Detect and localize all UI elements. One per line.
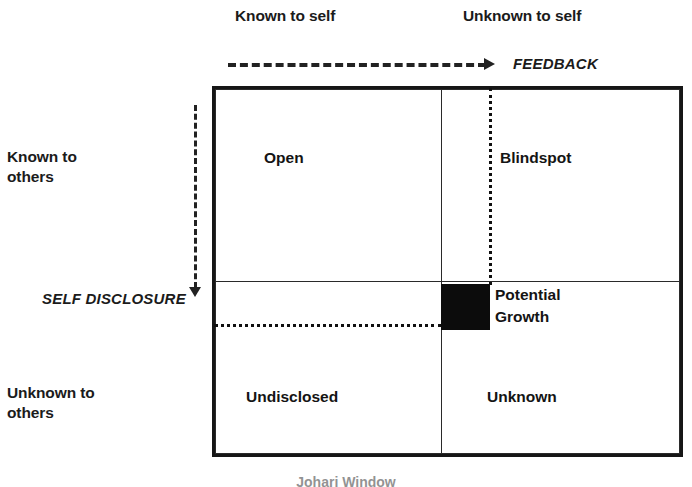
column-header-unknown-to-self: Unknown to self [463,6,581,26]
column-header-known-to-self: Known to self [235,6,335,26]
potential-growth-block [441,284,490,330]
potential-growth-label-line2: Growth [495,307,549,327]
undisclosed-dotted-guide [214,324,442,327]
feedback-arrowhead-icon [484,58,495,70]
vertical-divider [441,89,442,454]
blindspot-dotted-guide [489,88,492,285]
diagram-caption: Johari Window [0,474,692,487]
row-header-unknown-to-others-line2: others [7,403,54,423]
quadrant-label-open: Open [264,148,304,168]
potential-growth-label-line1: Potential [495,285,560,305]
row-header-known-to-others-line1: Known to [7,147,77,167]
row-header-known-to-others-line2: others [7,167,54,187]
self-disclosure-arrow-line [194,105,197,288]
quadrant-label-blindspot: Blindspot [500,148,571,168]
feedback-axis-label: FEEDBACK [513,55,598,72]
horizontal-divider [215,281,680,282]
self-disclosure-arrowhead-icon [189,287,201,297]
feedback-arrow-line [228,63,486,67]
row-header-unknown-to-others-line1: Unknown to [7,383,95,403]
quadrant-label-unknown: Unknown [487,387,557,407]
self-disclosure-axis-label: SELF DISCLOSURE [42,290,186,307]
quadrant-label-undisclosed: Undisclosed [246,387,338,407]
johari-window-diagram: Known to self Unknown to self Known to o… [0,0,692,487]
